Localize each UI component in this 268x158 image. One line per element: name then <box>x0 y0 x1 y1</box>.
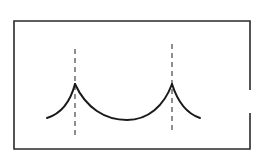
frame-left-top-right-upper <box>14 21 250 149</box>
curve-right-segment <box>172 84 200 118</box>
frame <box>14 21 250 149</box>
diagram-canvas <box>0 0 268 158</box>
cusp-curve-diagram <box>0 0 268 158</box>
curve-middle-segment <box>75 84 172 120</box>
curve-left-segment <box>47 84 75 118</box>
dashed-guides <box>75 44 172 136</box>
cusp-curve <box>47 84 200 120</box>
